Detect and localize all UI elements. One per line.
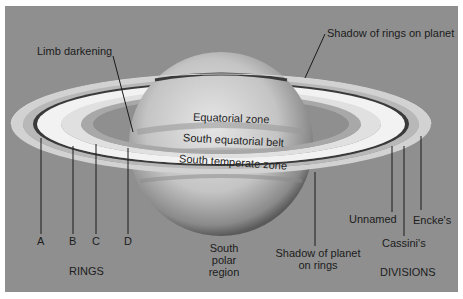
shadow-planet-line1: Shadow of planet — [273, 247, 363, 259]
shadow-planet-line2: on rings — [273, 259, 363, 271]
label-ring-a: A — [37, 235, 44, 247]
label-rings-heading: RINGS — [69, 265, 104, 277]
label-south-polar-region: South polar region — [201, 242, 247, 278]
south-polar-line1: South — [201, 242, 247, 254]
saturn-diagram-panel: Limb darkening Shadow of rings on planet… — [5, 6, 458, 292]
south-polar-line3: region — [201, 266, 247, 278]
label-shadow-rings-on-planet: Shadow of rings on planet — [327, 27, 454, 39]
label-divisions-heading: DIVISIONS — [380, 266, 436, 278]
label-unnamed-division: Unnamed — [349, 213, 397, 225]
label-cassini-division: Cassini's — [382, 237, 426, 249]
label-limb-darkening: Limb darkening — [37, 45, 112, 57]
label-encke-division: Encke's — [413, 214, 451, 226]
label-ring-c: C — [92, 235, 100, 247]
label-ring-d: D — [124, 235, 132, 247]
label-shadow-planet-on-rings: Shadow of planet on rings — [273, 247, 363, 271]
label-ring-b: B — [69, 235, 76, 247]
south-polar-line2: polar — [201, 254, 247, 266]
